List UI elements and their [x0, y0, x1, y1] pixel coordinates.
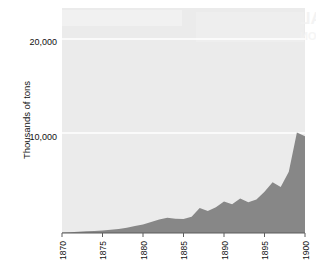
x-tick-label-1875: 1875	[98, 241, 108, 260]
y-tick-label-20,000: 20,000	[29, 37, 57, 47]
y-tick-label-10,000: 10,000	[29, 132, 57, 142]
x-tick-label-1880: 1880	[139, 241, 149, 260]
x-tick-label-1885: 1885	[179, 241, 189, 260]
x-tick-label-1895: 1895	[260, 241, 270, 260]
y-axis-title: Thousands of tons	[21, 81, 32, 159]
x-tick-label-1900: 1900	[301, 241, 311, 260]
x-tick-label-1870: 1870	[58, 241, 68, 260]
area-chart: LOCAL DISTRIBUTION 187018751880188518901…	[0, 0, 316, 270]
chart-figure: LOCAL DISTRIBUTION 187018751880188518901…	[0, 0, 316, 270]
x-tick-label-1890: 1890	[220, 241, 230, 260]
